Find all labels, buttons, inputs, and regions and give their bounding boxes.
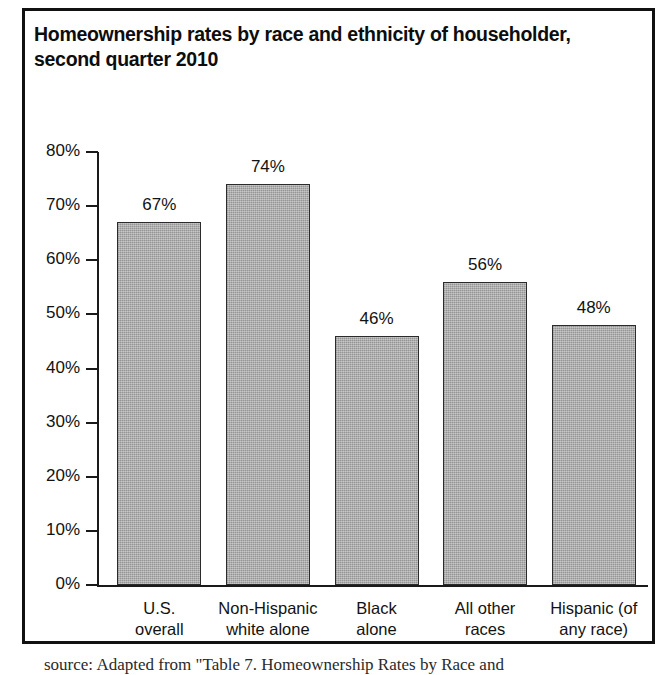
figure-frame: [22, 8, 655, 644]
chart-title-line-1: Homeownership rates by race and ethnicit…: [34, 23, 571, 45]
source-note: source: Adapted from "Table 7. Homeowner…: [44, 655, 644, 675]
chart-title-line-2: second quarter 2010: [34, 47, 634, 72]
chart-title: Homeownership rates by race and ethnicit…: [34, 22, 634, 72]
